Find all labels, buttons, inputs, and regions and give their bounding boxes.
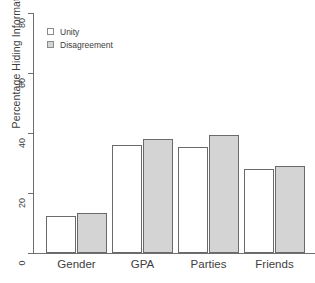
y-tick-label-0: 0 bbox=[17, 253, 27, 273]
y-tick-label-60: 60 bbox=[17, 73, 27, 93]
y-tick-20 bbox=[28, 193, 33, 194]
bar-gender-disagreement bbox=[77, 213, 107, 253]
legend-swatch-unity-icon bbox=[47, 28, 54, 35]
y-tick-40 bbox=[28, 133, 33, 134]
chart-legend: Unity Disagreement bbox=[47, 26, 113, 52]
x-label-friends: Friends bbox=[234, 258, 315, 270]
y-tick-label-80: 80 bbox=[17, 13, 27, 33]
y-tick-60 bbox=[28, 73, 33, 74]
bar-gender-unity bbox=[46, 216, 76, 253]
bar-chart: Percentage Hiding Information 020406080 … bbox=[0, 0, 315, 283]
legend-item-disagreement: Disagreement bbox=[47, 39, 113, 50]
bar-parties-disagreement bbox=[209, 135, 239, 253]
y-tick-label-40: 40 bbox=[17, 133, 27, 153]
x-axis-line bbox=[33, 253, 315, 254]
bar-friends-disagreement bbox=[275, 166, 305, 253]
legend-item-unity: Unity bbox=[47, 26, 113, 37]
legend-label-disagreement: Disagreement bbox=[60, 40, 113, 50]
legend-swatch-disagreement-icon bbox=[47, 41, 54, 48]
bar-parties-unity bbox=[178, 147, 208, 253]
bar-gpa-unity bbox=[112, 145, 142, 253]
bar-gpa-disagreement bbox=[143, 139, 173, 253]
legend-label-unity: Unity bbox=[60, 27, 79, 37]
y-tick-80 bbox=[28, 13, 33, 14]
bar-friends-unity bbox=[244, 169, 274, 253]
y-tick-label-20: 20 bbox=[17, 193, 27, 213]
